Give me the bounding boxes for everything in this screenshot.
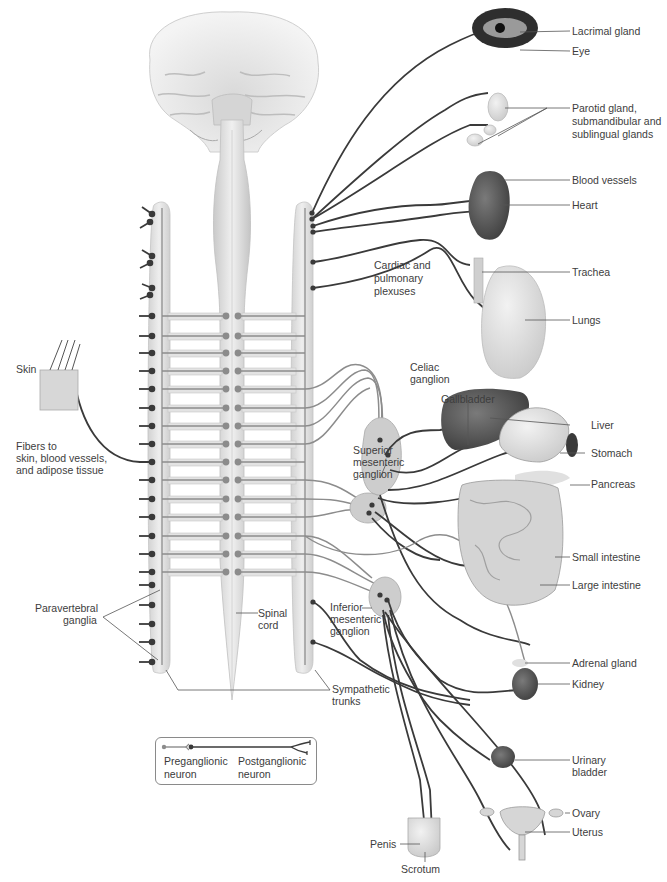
- label-heart: Heart: [572, 199, 598, 212]
- label-lacrimal-gland: Lacrimal gland: [572, 25, 640, 38]
- label-adrenal-gland: Adrenal gland: [572, 657, 637, 670]
- label-ovary: Ovary: [572, 807, 600, 820]
- label-penis: Penis: [370, 838, 396, 851]
- label-spinal-2: cord: [258, 619, 278, 632]
- label-trachea: Trachea: [572, 266, 610, 279]
- legend-postganglionic: Postganglionic neuron: [238, 755, 313, 781]
- legend-postganglionic-l2: neuron: [238, 768, 313, 781]
- uterus-ovary-illustration: [480, 807, 563, 860]
- skin-illustration: [40, 340, 80, 410]
- legend-neuron-icon: [156, 740, 316, 756]
- label-inf-mes-3: ganglion: [330, 625, 370, 638]
- legend-preganglionic-l2: neuron: [164, 768, 234, 781]
- salivary-glands-illustration: [467, 93, 508, 146]
- label-salivary-3: sublingual glands: [572, 128, 653, 141]
- label-paravertebral-2: ganglia: [63, 614, 97, 627]
- label-fibers-3: and adipose tissue: [16, 464, 104, 477]
- skin-fiber: [74, 378, 150, 462]
- label-cardiac-1: Cardiac and: [374, 259, 431, 272]
- label-skin: Skin: [16, 363, 36, 376]
- right-sympathetic-trunk: [291, 202, 313, 673]
- legend-preganglionic: Preganglionic neuron: [164, 755, 234, 781]
- legend-preganglionic-l1: Preganglionic: [164, 755, 234, 768]
- label-celiac-2: ganglion: [410, 373, 450, 386]
- label-small-intestine: Small intestine: [572, 551, 640, 564]
- penis-scrotum-illustration: [408, 818, 440, 857]
- label-stomach: Stomach: [591, 447, 632, 460]
- label-lungs: Lungs: [572, 314, 601, 327]
- trachea-illustration: [474, 258, 483, 303]
- adrenal-kidney-illustration: [512, 659, 538, 700]
- label-cardiac-2: pulmonary: [374, 272, 423, 285]
- intestines-illustration: [458, 480, 563, 605]
- label-salivary-2: submandibular and: [572, 115, 661, 128]
- label-uterus: Uterus: [572, 826, 603, 839]
- label-urinary-2: bladder: [572, 766, 607, 779]
- sympathetic-diagram: [0, 0, 667, 882]
- label-gallbladder: Gallbladder: [441, 393, 495, 406]
- label-sup-mes-3: ganglion: [353, 468, 393, 481]
- label-salivary-1: Parotid gland,: [572, 102, 637, 115]
- label-sympathetic-2: trunks: [332, 695, 361, 708]
- eye-illustration: [472, 8, 538, 48]
- label-scrotum: Scrotum: [401, 863, 440, 876]
- urinary-bladder-illustration: [491, 746, 515, 768]
- lungs-illustration: [482, 266, 546, 378]
- label-kidney: Kidney: [572, 678, 604, 691]
- legend-box: Preganglionic neuron Postganglionic neur…: [155, 737, 317, 785]
- label-cardiac-3: plexuses: [374, 285, 415, 298]
- label-large-intestine: Large intestine: [572, 579, 641, 592]
- label-eye: Eye: [572, 45, 590, 58]
- label-liver: Liver: [591, 419, 614, 432]
- legend-postganglionic-l1: Postganglionic: [238, 755, 313, 768]
- label-pancreas: Pancreas: [591, 478, 635, 491]
- label-blood-vessels: Blood vessels: [572, 174, 637, 187]
